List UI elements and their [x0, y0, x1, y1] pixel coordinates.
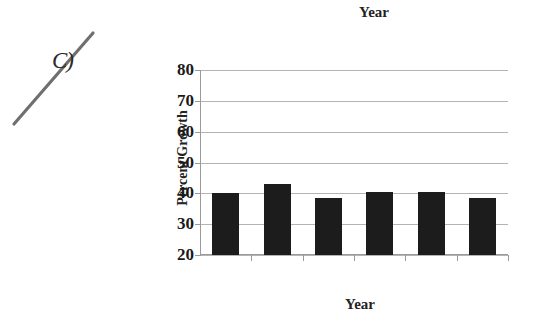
gridline: [200, 224, 508, 225]
x-tick-mark: [508, 255, 509, 261]
x-tick-mark: [457, 255, 458, 261]
y-tick-mark: [195, 255, 201, 256]
y-tick-mark: [195, 101, 201, 102]
x-axis-label: Year: [200, 296, 520, 313]
bar: [366, 192, 393, 255]
strikethrough-line-icon: [0, 0, 150, 160]
x-tick-mark: [251, 255, 252, 261]
gridline: [200, 132, 508, 133]
y-tick-mark: [195, 193, 201, 194]
gridline: [200, 101, 508, 102]
gridline: [200, 193, 508, 194]
bar: [264, 184, 291, 255]
y-tick-mark: [195, 132, 201, 133]
y-tick-label: 70: [150, 92, 194, 109]
chart-title: Year: [150, 4, 538, 21]
y-tick-mark: [195, 224, 201, 225]
y-tick-label: 40: [150, 184, 194, 201]
y-tick-label: 50: [150, 154, 194, 171]
answer-choice-label: C): [52, 48, 73, 74]
y-tick-label: 30: [150, 215, 194, 232]
gridline: [200, 70, 508, 71]
y-tick-label: 80: [150, 61, 194, 78]
plot-area: 20304050607080 200020012002200320042005: [200, 70, 508, 255]
y-tick-label: 20: [150, 246, 194, 263]
gridline: [200, 163, 508, 164]
y-tick-label: 60: [150, 123, 194, 140]
y-tick-mark: [195, 70, 201, 71]
x-tick-mark: [354, 255, 355, 261]
bar: [315, 198, 342, 255]
y-tick-mark: [195, 163, 201, 164]
bar-chart: Year Percent Growth 20304050607080 20002…: [150, 0, 538, 325]
answer-choice-annotation: C): [0, 0, 150, 160]
bar: [469, 198, 496, 255]
x-tick-mark: [405, 255, 406, 261]
bar: [418, 192, 445, 255]
x-tick-mark: [303, 255, 304, 261]
bar: [212, 193, 239, 255]
